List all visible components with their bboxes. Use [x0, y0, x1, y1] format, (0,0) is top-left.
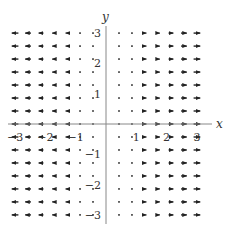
x-tick-label: 2	[163, 131, 170, 144]
vector-arrow	[131, 175, 133, 177]
vector-arrow	[118, 188, 120, 190]
x-tick-label: −2	[37, 131, 53, 144]
x-tick-label: 1	[133, 131, 140, 144]
vector-arrow	[131, 201, 133, 203]
vector-arrow	[92, 136, 94, 138]
vector-arrow	[79, 214, 81, 216]
vector-arrow	[79, 110, 81, 112]
vector-arrow	[118, 45, 120, 47]
y-axis-label: y	[101, 10, 109, 24]
vector-arrow	[92, 110, 94, 112]
vector-arrow	[92, 71, 94, 73]
vector-field-plot: −3−2−1123 −3−2−1123 x y	[0, 0, 227, 231]
vector-arrow	[131, 188, 133, 190]
vector-arrow	[118, 110, 120, 112]
vector-arrow	[118, 71, 120, 73]
vector-arrow	[131, 32, 133, 34]
vector-arrow	[131, 110, 133, 112]
vector-arrow	[131, 149, 133, 151]
vector-arrow	[79, 149, 81, 151]
x-axis-label: x	[216, 117, 223, 131]
y-tick-label: 3	[94, 27, 101, 40]
vector-arrow	[118, 136, 120, 138]
vector-arrow	[131, 214, 133, 216]
vector-arrow	[79, 71, 81, 73]
vector-arrow	[92, 201, 94, 203]
vector-arrow	[79, 188, 81, 190]
vector-arrow	[131, 58, 133, 60]
vector-arrow	[131, 162, 133, 164]
vector-arrow	[79, 97, 81, 99]
vector-arrow	[118, 97, 120, 99]
vector-arrow	[79, 58, 81, 60]
x-tick-label: −1	[68, 131, 84, 144]
vector-arrow	[79, 162, 81, 164]
vector-arrow	[131, 97, 133, 99]
vector-arrow	[118, 175, 120, 177]
vector-arrow	[118, 32, 120, 34]
vector-arrow	[118, 201, 120, 203]
y-tick-label: −2	[85, 179, 101, 192]
vector-arrow	[131, 71, 133, 73]
y-tick-label: −1	[85, 148, 101, 161]
vector-arrow	[131, 84, 133, 86]
vector-arrow	[92, 175, 94, 177]
vector-arrow	[92, 84, 94, 86]
vector-arrow	[118, 84, 120, 86]
x-tick-label: 3	[193, 131, 200, 144]
vector-arrow	[118, 58, 120, 60]
vector-arrow	[118, 214, 120, 216]
y-tick-label: −3	[85, 209, 101, 222]
y-tick-label: 1	[94, 88, 101, 101]
vector-arrow	[131, 45, 133, 47]
vector-arrow	[79, 32, 81, 34]
y-tick-label: 2	[94, 57, 101, 70]
x-tick-label: −3	[7, 131, 23, 144]
vector-arrow	[92, 162, 94, 164]
vector-arrow	[79, 84, 81, 86]
vector-arrow	[118, 162, 120, 164]
vector-arrow	[79, 175, 81, 177]
vector-arrow	[79, 45, 81, 47]
vector-arrow	[79, 201, 81, 203]
vector-arrow	[118, 149, 120, 151]
vector-arrow	[92, 45, 94, 47]
